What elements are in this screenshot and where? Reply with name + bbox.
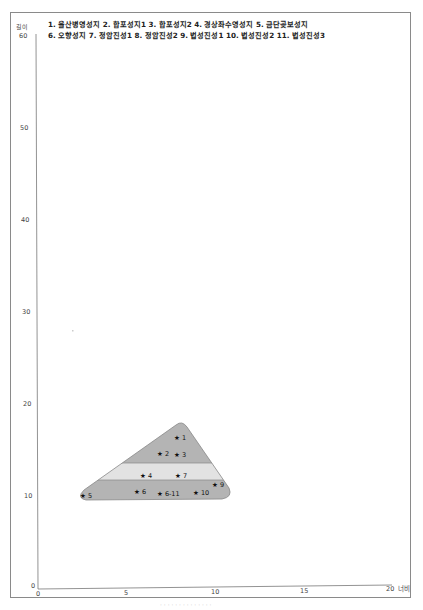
svg-text:★ 2: ★ 2 — [157, 450, 169, 458]
svg-text:★ 7: ★ 7 — [175, 472, 187, 480]
plot-area: ★ 1 ★ 2 ★ 3 ★ 4 ★ 7 ★ 9 ★ 5 ★ 6 ★ 6-11 ★… — [0, 0, 423, 610]
svg-text:★ 4: ★ 4 — [140, 472, 152, 480]
svg-text:★ 9: ★ 9 — [212, 481, 224, 489]
x-axis — [38, 585, 392, 589]
figure-caption: · · · · · · · · · · · · · · — [160, 601, 212, 608]
svg-text:★ 1: ★ 1 — [174, 434, 186, 442]
svg-text:★ 10: ★ 10 — [193, 489, 209, 497]
y-axis — [36, 34, 38, 589]
middle-band — [60, 463, 260, 480]
svg-text:★ 6-11: ★ 6-11 — [157, 490, 180, 498]
svg-text:★ 5: ★ 5 — [80, 492, 92, 500]
svg-text:★ 3: ★ 3 — [174, 451, 186, 459]
svg-text:★ 6: ★ 6 — [134, 488, 146, 496]
